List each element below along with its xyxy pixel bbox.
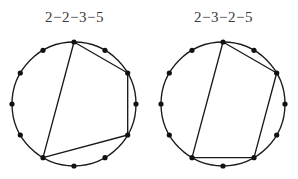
circle-point-dot	[158, 101, 163, 106]
circle-outline	[12, 42, 136, 166]
polygon-chord	[74, 42, 128, 73]
circle-point-dot	[125, 132, 130, 137]
panel-caption-right: 2−3−2−5	[194, 10, 253, 25]
polygon-chord	[254, 73, 277, 158]
circle-point-dot	[167, 70, 172, 75]
figure-panel-left: 2−2−3−5	[0, 0, 149, 179]
circle-point-dot	[18, 70, 23, 75]
circle-point-dot	[133, 101, 138, 106]
panel-caption-left: 2−2−3−5	[45, 10, 104, 25]
circle-point-dot	[220, 163, 225, 168]
circle-point-dot	[282, 101, 287, 106]
circle-diagram-right	[149, 27, 298, 177]
circle-point-dot	[274, 132, 279, 137]
circle-point-dot	[71, 163, 76, 168]
polygon-chord	[43, 135, 128, 158]
circle-point-dot	[102, 48, 107, 53]
circle-diagram-left	[0, 27, 149, 177]
figure-root: 2−2−3−5 2−3−2−5	[0, 0, 298, 179]
circle-point-dot	[167, 132, 172, 137]
figure-panel-right: 2−3−2−5	[149, 0, 298, 179]
circle-point-dot	[40, 155, 45, 160]
circle-point-dot	[274, 70, 279, 75]
polygon-chord	[43, 42, 74, 158]
circle-point-dot	[189, 48, 194, 53]
circle-point-dot	[9, 101, 14, 106]
circle-point-dot	[251, 155, 256, 160]
circle-point-dot	[40, 48, 45, 53]
circle-point-dot	[251, 48, 256, 53]
circle-point-dot	[102, 155, 107, 160]
polygon-chord	[192, 42, 223, 158]
circle-point-dot	[189, 155, 194, 160]
polygon-chord	[223, 42, 277, 73]
circle-point-dot	[18, 132, 23, 137]
circle-outline	[161, 42, 285, 166]
circle-point-dot	[71, 39, 76, 44]
circle-point-dot	[125, 70, 130, 75]
circle-point-dot	[220, 39, 225, 44]
